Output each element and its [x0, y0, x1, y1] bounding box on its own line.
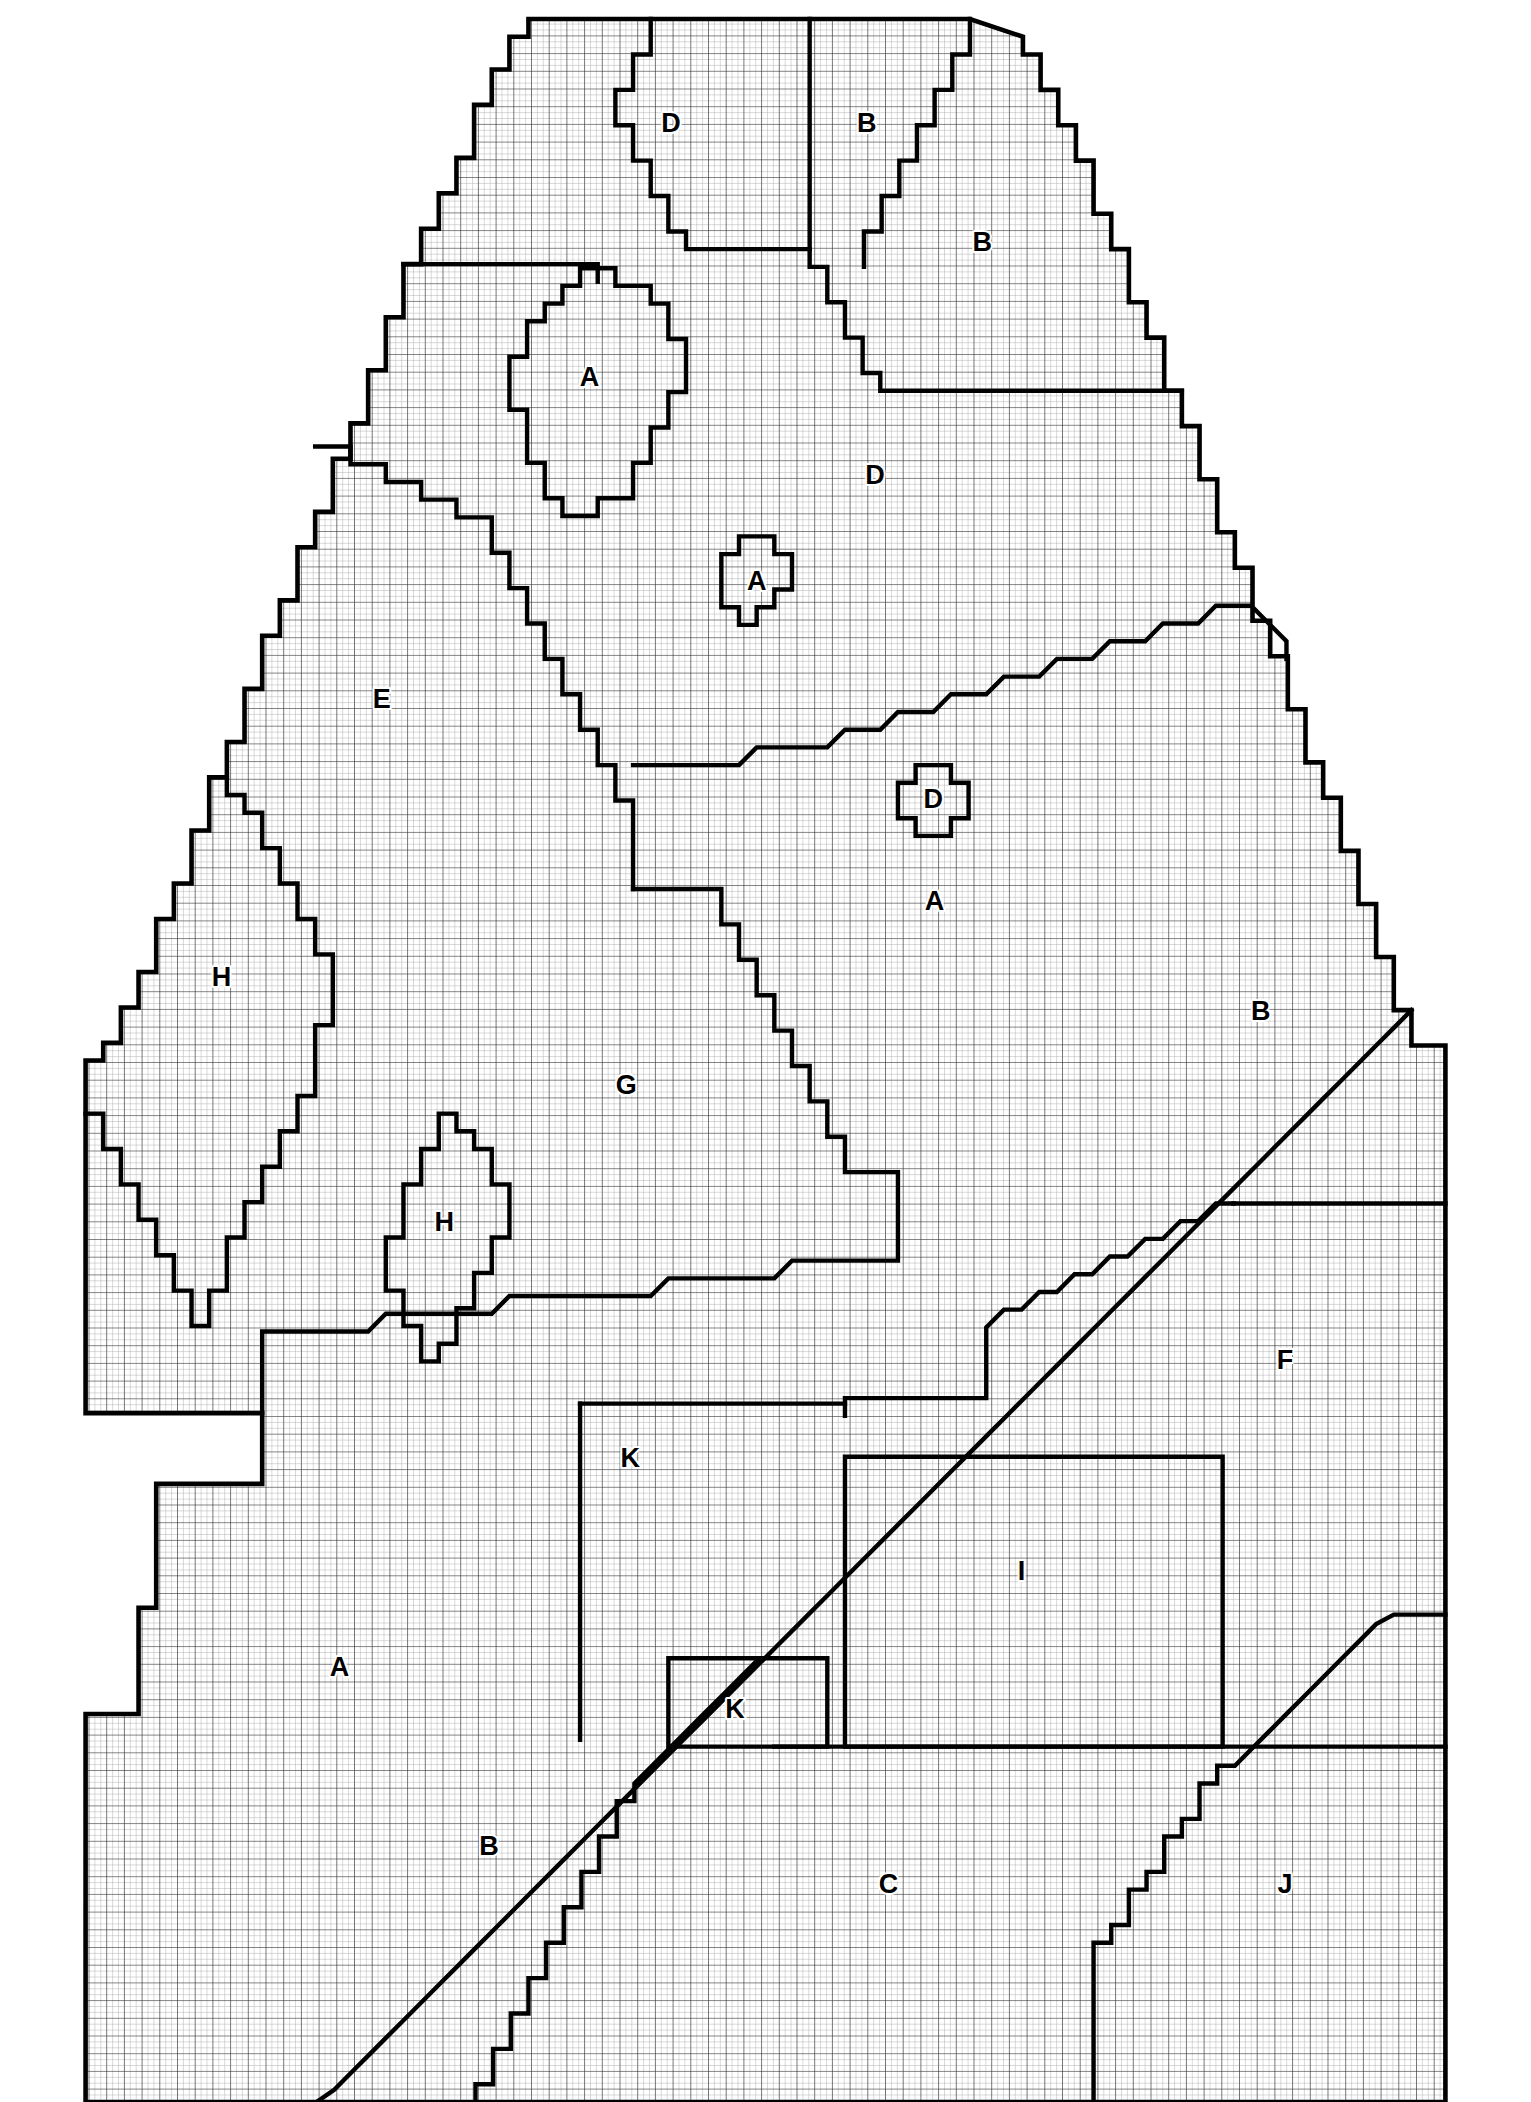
- zone-label-B-bottom: B: [479, 1831, 499, 1861]
- zone-label-A-mid-right: A: [925, 886, 945, 916]
- zone-label-G-center: G: [616, 1070, 637, 1100]
- grid-zoning-map: DBBADAEDAHBGHFKIAKBCJ: [0, 0, 1531, 2102]
- zone-label-H-diamond: H: [434, 1207, 454, 1237]
- zone-label-C-bottom: C: [879, 1869, 899, 1899]
- zone-label-F-right: F: [1277, 1345, 1294, 1375]
- zone-label-D-blob-small: D: [924, 784, 944, 814]
- zone-label-D-upper-mid: D: [865, 460, 885, 490]
- zone-label-J-bottom: J: [1278, 1869, 1293, 1899]
- zone-label-K-lower: K: [725, 1694, 745, 1724]
- zone-label-B-right: B: [1251, 996, 1271, 1026]
- zone-label-A-oval-large: A: [580, 362, 600, 392]
- zone-label-D-top: D: [661, 108, 681, 138]
- zone-label-H-left: H: [212, 962, 232, 992]
- zone-label-I-rect: I: [1018, 1556, 1026, 1586]
- zone-label-K-upper: K: [621, 1443, 641, 1473]
- zone-label-B-upper-right: B: [972, 227, 992, 257]
- zone-label-E-left: E: [373, 684, 391, 714]
- diagram-canvas: DBBADAEDAHBGHFKIAKBCJ: [0, 0, 1531, 2102]
- zone-label-A-blob-small: A: [747, 566, 767, 596]
- zone-label-A-lower-left: A: [330, 1652, 350, 1682]
- zone-label-B-top: B: [857, 108, 877, 138]
